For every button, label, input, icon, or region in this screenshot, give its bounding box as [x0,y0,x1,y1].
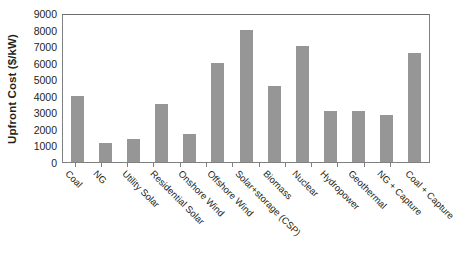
x-axis-category-label: Coal [63,168,85,190]
bar [268,86,281,162]
y-axis-tick-labels: 9000800070006000500040003000200010000 [24,8,60,170]
x-axis-tick-mark-slot [272,163,298,167]
x-axis-tick-mark-slot [193,163,219,167]
x-axis-tick-mark [206,163,207,167]
x-axis-category-label: Coal + Capture [403,168,456,221]
bars-layer [63,15,429,162]
bar [296,46,309,162]
x-axis-tick-mark-slot [325,163,351,167]
bar-slot [119,15,147,162]
x-axis-tick-mark-slot [220,163,246,167]
bar [183,134,196,162]
x-axis-tick-mark-slot [141,163,167,167]
bar [408,53,421,162]
y-axis-tick-label: 8000 [34,25,57,37]
y-axis-title-text: Upfront Cost ($/kW) [6,34,18,144]
x-axis-tick-mark-slot [351,163,377,167]
x-axis-tick-mark [311,163,312,167]
bar-slot [232,15,260,162]
bar-slot [288,15,316,162]
x-axis-tick-mark [364,163,365,167]
y-axis-tick-label: 4000 [34,91,57,103]
x-axis-tick-mark-slot [115,163,141,167]
x-axis-tick-mark [180,163,181,167]
bar-slot [147,15,175,162]
x-axis-tick-mark [101,163,102,167]
bar-slot [401,15,429,162]
x-axis-tick-mark-slot [377,163,403,167]
y-axis-tick-label: 3000 [34,107,57,119]
y-axis-tick-label: 2000 [34,124,57,136]
bar-slot [63,15,91,162]
x-axis-tick-mark [390,163,391,167]
bar-slot [345,15,373,162]
y-axis-tick-label: 0 [51,157,57,169]
bar-slot [91,15,119,162]
bar-slot [204,15,232,162]
bar-slot [373,15,401,162]
y-axis-tick-label: 9000 [34,8,57,20]
y-axis-tick-label: 1000 [34,140,57,152]
x-axis-tick-mark [75,163,76,167]
x-axis-tick-mark-slot [167,163,193,167]
bar-slot [316,15,344,162]
x-axis-tick-mark-slot [404,163,430,167]
bar [324,111,337,162]
bar [352,111,365,162]
y-axis-tick-label: 5000 [34,74,57,86]
x-axis-tick-mark-slot [88,163,114,167]
x-axis-tick-mark-slot [246,163,272,167]
x-axis-tick-mark [127,163,128,167]
y-axis-tick-label: 7000 [34,41,57,53]
x-axis-tick-mark [232,163,233,167]
plot-area [62,14,430,163]
bar [127,139,140,162]
bar [240,30,253,162]
x-axis-tick-mark [153,163,154,167]
y-axis-tick-label: 6000 [34,58,57,70]
x-axis-tick-mark-slot [62,163,88,167]
x-axis-tick-marks [62,163,430,167]
x-axis-tick-mark [337,163,338,167]
bar [71,96,84,162]
y-axis-title: Upfront Cost ($/kW) [0,0,24,178]
x-axis-tick-mark [259,163,260,167]
bar [211,63,224,162]
bar-slot [176,15,204,162]
x-axis-tick-mark [285,163,286,167]
x-axis-category-label: NG [92,168,110,186]
x-axis-tick-mark-slot [299,163,325,167]
x-axis-tick-labels: CoalNGUtility SolarResidential SolarOnsh… [62,168,430,253]
bar [155,104,168,162]
bar [99,143,112,162]
bar [380,115,393,162]
bar-slot [260,15,288,162]
x-axis-category-label: Nuclear [290,168,321,199]
